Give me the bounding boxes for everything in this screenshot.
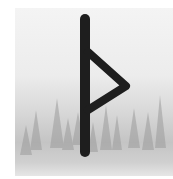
rune-illustration bbox=[0, 0, 173, 179]
